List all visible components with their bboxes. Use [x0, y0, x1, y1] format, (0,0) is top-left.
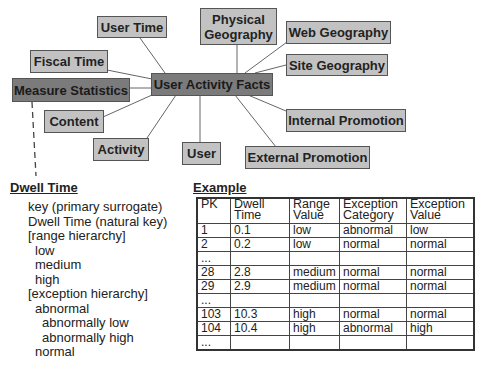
- column-header: Range Value: [290, 198, 340, 224]
- column-header: Exception Category: [340, 198, 407, 224]
- node-internal-promotion: Internal Promotion: [286, 109, 406, 132]
- cell: low: [290, 238, 340, 252]
- node-user-time: User Time: [97, 16, 167, 38]
- cell: 10.4: [231, 322, 290, 336]
- cell: 104: [197, 322, 231, 336]
- cell: ...: [197, 294, 231, 308]
- dwell-time-attribute-list: key (primary surrogate) Dwell Time (natu…: [28, 200, 167, 360]
- cell: 0.1: [231, 224, 290, 238]
- cell: 1: [197, 224, 231, 238]
- attribute: key (primary surrogate): [28, 200, 167, 215]
- cell: [290, 252, 340, 266]
- example-heading: Example: [193, 180, 246, 195]
- cell: high: [290, 322, 340, 336]
- cell: 10.3: [231, 308, 290, 322]
- cell: [407, 252, 475, 266]
- cell: 2: [197, 238, 231, 252]
- column-header: Exception Value: [407, 198, 475, 224]
- table-row: 282.8mediumnormalnormal: [197, 266, 474, 280]
- attribute: Dwell Time (natural key): [28, 215, 167, 230]
- cell: [231, 294, 290, 308]
- node-measure-statistics: Measure Statistics: [12, 78, 130, 102]
- attribute: abnormally high: [28, 331, 167, 346]
- cell: normal: [407, 238, 475, 252]
- cell: [340, 252, 407, 266]
- cell: ...: [197, 336, 231, 351]
- cell: ...: [197, 252, 231, 266]
- table-row: ...: [197, 252, 474, 266]
- cell: medium: [290, 280, 340, 294]
- cell: low: [290, 224, 340, 238]
- attribute: high: [28, 273, 167, 288]
- cell: 29: [197, 280, 231, 294]
- cell: [231, 252, 290, 266]
- cell: 2.9: [231, 280, 290, 294]
- cell: [231, 336, 290, 351]
- cell: high: [407, 322, 475, 336]
- cell: normal: [407, 280, 475, 294]
- cell: 2.8: [231, 266, 290, 280]
- column-header: Dwell Time: [231, 198, 290, 224]
- node-user: User: [182, 142, 221, 165]
- center-fact-node: User Activity Facts: [151, 73, 273, 96]
- table-header-row: PK Dwell Time Range Value Exception Cate…: [197, 198, 474, 224]
- column-header: PK: [197, 198, 231, 224]
- table-row: ...: [197, 294, 474, 308]
- attribute: normal: [28, 345, 167, 360]
- node-external-promotion: External Promotion: [245, 146, 370, 169]
- cell: high: [290, 308, 340, 322]
- cell: [340, 336, 407, 351]
- table-row: ...: [197, 336, 474, 351]
- cell: normal: [407, 266, 475, 280]
- attribute: abnormal: [28, 302, 167, 317]
- cell: 28: [197, 266, 231, 280]
- table-row: 292.9mediumnormalnormal: [197, 280, 474, 294]
- cell: [290, 336, 340, 351]
- cell: 103: [197, 308, 231, 322]
- node-fiscal-time: Fiscal Time: [30, 50, 108, 73]
- node-activity: Activity: [93, 138, 149, 161]
- dwell-time-heading: Dwell Time: [10, 180, 78, 195]
- cell: 0.2: [231, 238, 290, 252]
- cell: low: [407, 224, 475, 238]
- example-table: PK Dwell Time Range Value Exception Cate…: [196, 197, 475, 351]
- cell: normal: [407, 308, 475, 322]
- table-row: 10310.3highnormalnormal: [197, 308, 474, 322]
- attribute: medium: [28, 258, 167, 273]
- table-row: 10410.4highabnormalhigh: [197, 322, 474, 336]
- attribute: [exception hierarchy]: [28, 287, 167, 302]
- attribute: low: [28, 244, 167, 259]
- cell: [290, 294, 340, 308]
- node-physical-geography: Physical Geography: [200, 8, 277, 45]
- cell: [407, 336, 475, 351]
- node-web-geography: Web Geography: [286, 21, 391, 44]
- node-content: Content: [44, 110, 104, 133]
- attribute: [range hierarchy]: [28, 229, 167, 244]
- cell: normal: [340, 308, 407, 322]
- node-site-geography: Site Geography: [286, 54, 388, 76]
- cell: [340, 294, 407, 308]
- cell: abnormal: [340, 224, 407, 238]
- table-row: 20.2lownormalnormal: [197, 238, 474, 252]
- table-row: 10.1lowabnormallow: [197, 224, 474, 238]
- cell: normal: [340, 280, 407, 294]
- cell: medium: [290, 266, 340, 280]
- cell: normal: [340, 238, 407, 252]
- attribute: abnormally low: [28, 316, 167, 331]
- cell: normal: [340, 266, 407, 280]
- cell: [407, 294, 475, 308]
- cell: abnormal: [340, 322, 407, 336]
